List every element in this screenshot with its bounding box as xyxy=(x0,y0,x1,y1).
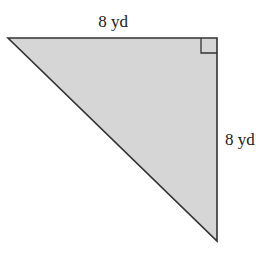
right-triangle xyxy=(8,38,217,241)
top-side-label: 8 yd xyxy=(98,12,128,31)
right-side-label: 8 yd xyxy=(225,130,255,149)
triangle-diagram: 8 yd 8 yd xyxy=(0,0,280,255)
